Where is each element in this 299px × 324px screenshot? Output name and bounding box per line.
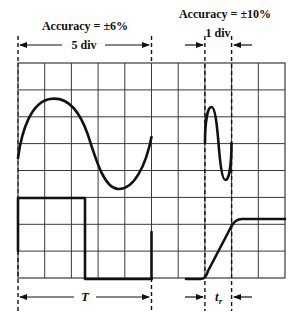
rise-time-label: tr: [215, 289, 223, 306]
rise-time-sub: r: [219, 296, 223, 306]
span-left-label: 5 div: [71, 38, 96, 52]
period-label: T: [81, 289, 90, 304]
accuracy-left-label: Accuracy = ±6%: [42, 19, 128, 33]
one-div-arrows: [185, 42, 252, 48]
rising-edge-trace: [186, 219, 285, 279]
accuracy-right-label: Accuracy = ±10%: [179, 7, 271, 21]
square-wave-trace: [18, 198, 152, 279]
oscilloscope-diagram: Accuracy = ±6% Accuracy = ±10% 1 div 5 d…: [0, 0, 299, 324]
span-right-label: 1 div: [205, 26, 230, 40]
